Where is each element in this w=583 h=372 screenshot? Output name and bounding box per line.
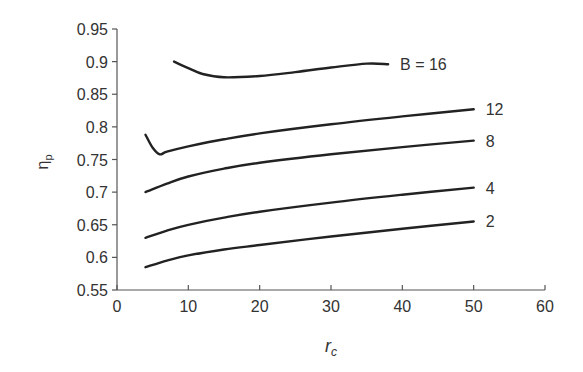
y-tick-label: 0.8 xyxy=(86,119,108,136)
series-label: 12 xyxy=(486,101,504,118)
y-tick-label: 0.55 xyxy=(77,282,108,299)
x-tick-label: 60 xyxy=(536,298,554,315)
curves xyxy=(146,62,474,268)
x-tick-label: 20 xyxy=(251,298,269,315)
y-tick-label: 0.65 xyxy=(77,217,108,234)
y-tick-label: 0.7 xyxy=(86,184,108,201)
x-tick-label: 30 xyxy=(322,298,340,315)
x-axis-label: rc xyxy=(325,336,337,359)
series-label: 2 xyxy=(486,213,495,230)
series-line xyxy=(146,109,474,154)
series-label: B = 16 xyxy=(400,56,447,73)
y-tick-label: 0.95 xyxy=(77,21,108,38)
series-label: 4 xyxy=(486,180,495,197)
y-tick-label: 0.75 xyxy=(77,152,108,169)
y-tick-label: 0.85 xyxy=(77,86,108,103)
series-line xyxy=(146,188,474,238)
series-label: 8 xyxy=(486,133,495,150)
series-line xyxy=(174,62,388,78)
axes: 0.550.60.650.70.750.80.850.90.9501020304… xyxy=(77,21,554,315)
series-line xyxy=(146,222,474,268)
y-tick-label: 0.9 xyxy=(86,54,108,71)
series-line xyxy=(146,141,474,193)
y-axis-label: ηp xyxy=(34,154,54,169)
x-tick-label: 40 xyxy=(393,298,411,315)
y-tick-label: 0.6 xyxy=(86,249,108,266)
x-tick-label: 50 xyxy=(465,298,483,315)
x-tick-label: 10 xyxy=(179,298,197,315)
x-tick-label: 0 xyxy=(113,298,122,315)
chart: 0.550.60.650.70.750.80.850.90.9501020304… xyxy=(0,0,583,372)
